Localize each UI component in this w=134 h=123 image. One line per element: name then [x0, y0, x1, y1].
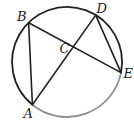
chord-AB — [29, 23, 33, 105]
chord-AD — [32, 15, 95, 105]
label-point-E: E — [123, 66, 134, 81]
chord-BE — [29, 23, 121, 73]
label-point-B: B — [16, 9, 27, 24]
geometry-figure: A B C D E — [0, 0, 134, 123]
chord-DE — [96, 15, 121, 73]
label-point-D: D — [96, 1, 108, 16]
label-point-C: C — [60, 41, 70, 56]
label-point-A: A — [23, 106, 33, 121]
arc-AE-highlight — [32, 73, 121, 117]
circle-diagram-svg: A B C D E — [0, 0, 134, 123]
